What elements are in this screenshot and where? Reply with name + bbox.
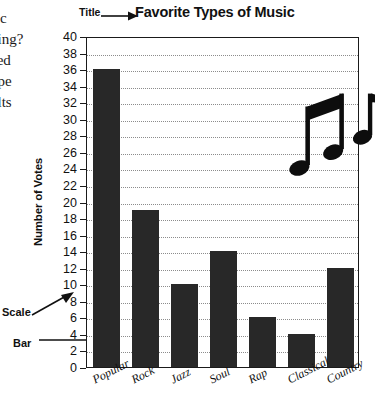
y-axis-tick-label: 8 (50, 295, 77, 309)
y-axis-tick-label: 30 (50, 113, 77, 127)
y-axis-tick-label: 18 (50, 212, 77, 226)
y-axis-tick-label: 20 (50, 196, 77, 210)
margin-text-line: sic (0, 8, 42, 29)
y-axis-tick-label: 16 (50, 229, 77, 243)
callout-arrow-title (100, 9, 140, 23)
margin-text-line: ype (0, 71, 42, 92)
y-axis-tick-label: 4 (50, 328, 77, 342)
y-axis-tick-label: 36 (50, 63, 77, 77)
callout-label-bar: Bar (13, 337, 31, 349)
page-margin-text: sic oing? ced ype ults (0, 8, 42, 113)
y-axis-tick-label: 14 (50, 245, 77, 259)
y-axis-tick-label: 32 (50, 96, 77, 110)
x-axis-tick-label: Rap (246, 365, 270, 387)
y-axis-tick-label: 22 (50, 179, 77, 193)
margin-text-line: oing? (0, 29, 42, 50)
callout-label-title: Title (79, 6, 100, 18)
y-axis-title: Number of Votes (32, 152, 44, 252)
y-axis-tick-label: 38 (50, 47, 77, 61)
y-axis-tick-label: 12 (50, 262, 77, 276)
bar-series (87, 38, 358, 367)
y-axis-tick-label: 28 (50, 129, 77, 143)
bar (210, 251, 237, 367)
y-axis-tick (80, 368, 86, 369)
bar (171, 284, 198, 367)
y-axis-tick-label: 34 (50, 80, 77, 94)
y-axis-tick-label: 24 (50, 162, 77, 176)
y-axis-tick-label: 6 (50, 311, 77, 325)
y-axis-tick-label: 26 (50, 146, 77, 160)
plot-area (86, 37, 359, 368)
y-axis-tick-label: 10 (50, 278, 77, 292)
x-axis-tick-label: Jazz (168, 365, 193, 388)
bar (327, 268, 354, 367)
y-axis-tick-label: 40 (50, 30, 77, 44)
bar (93, 69, 120, 367)
y-axis-tick-label: 2 (50, 344, 77, 358)
chart-title: Favorite Types of Music (135, 4, 295, 20)
bar (132, 210, 159, 367)
bar (249, 317, 276, 367)
y-axis-tick-label: 0 (50, 361, 77, 375)
margin-text-line: ced (0, 50, 42, 71)
margin-text-line: ults (0, 92, 42, 113)
callout-label-scale: Scale (2, 306, 31, 318)
